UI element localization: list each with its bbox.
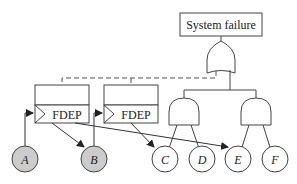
top-event-label: System failure [186,18,256,32]
svg-text:C: C [161,153,170,167]
top-event-box: System failure [180,13,262,36]
dashed-connector [62,71,216,85]
and-gate-1-icon [169,98,199,125]
svg-text:D: D [197,153,207,167]
or-gate-icon [207,41,235,73]
basic-event-e: E [225,146,251,172]
svg-text:A: A [20,153,29,167]
svg-text:F: F [270,153,279,167]
svg-text:B: B [90,153,98,167]
fdep-gate-2: FDEP [104,85,158,123]
and-gate-2-icon [241,98,271,125]
svg-text:E: E [233,153,242,167]
basic-event-d: D [189,146,215,172]
fdep-1-label: FDEP [52,108,82,122]
fdep-gate-1: FDEP [35,85,89,123]
basic-event-c: C [152,146,178,172]
basic-event-b: B [81,146,107,172]
basic-event-f: F [262,146,288,172]
fdep-2-label: FDEP [121,108,151,122]
fault-tree-diagram: System failure FDEP FDEP A B [0,0,297,184]
basic-event-a: A [12,146,38,172]
